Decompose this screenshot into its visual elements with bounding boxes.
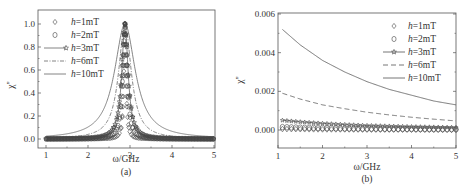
diamond-marker — [325, 127, 329, 133]
figure: 123450.00.20.40.60.81.0 ω/GHz (a) χ'' h=… — [0, 0, 467, 189]
circle-marker — [392, 36, 396, 41]
y-tick-label-a: 0.6 — [24, 65, 36, 75]
x-tick-label-b: 4 — [409, 151, 414, 161]
y-tick-label-b: 0.000 — [255, 125, 276, 135]
x-tick-label-b: 3 — [365, 151, 370, 161]
diamond-marker — [392, 23, 396, 28]
y-tick-label-b: 0.006 — [255, 9, 276, 19]
diamond-marker — [302, 126, 306, 132]
y-tick-label-a: 0.2 — [24, 111, 35, 121]
diamond-marker — [298, 126, 302, 132]
circle-marker — [316, 125, 320, 131]
x-tick-label-b: 1 — [276, 151, 281, 161]
star-marker — [280, 118, 284, 122]
y-tick-label-a: 0.8 — [24, 42, 36, 52]
x-tick-label-b: 5 — [454, 151, 459, 161]
diamond-marker — [329, 127, 333, 133]
legend-a: h=1mTh=2mTh=3mTh=6mTh=10mT — [44, 17, 104, 79]
diamond-marker — [311, 127, 315, 133]
diamond-marker — [307, 127, 311, 133]
circle-marker — [280, 124, 284, 130]
legend-entry-b: h=6mT — [408, 60, 436, 70]
circle-marker — [302, 125, 306, 131]
x-axis-label-b: ω/GHz — [354, 162, 381, 172]
y-axis-label-b: χ'' — [235, 76, 245, 85]
diamond-marker — [53, 19, 57, 24]
circle-marker — [320, 125, 324, 131]
x-tick-label-a: 5 — [212, 150, 217, 160]
y-tick-label-a: 1.0 — [24, 19, 36, 29]
legend-entry-a: h=2mT — [71, 30, 99, 40]
diamond-marker — [125, 101, 129, 106]
legend-entry-a: h=3mT — [71, 43, 99, 53]
x-tick-label-a: 2 — [86, 150, 91, 160]
circle-marker — [289, 125, 293, 131]
legend-b: h=1mTh=2mTh=3mTh=6mTh=10mT — [383, 21, 441, 83]
panel-b: 123450.0000.0020.0040.006 ω/GHz (b) χ'' … — [235, 9, 459, 185]
circle-marker — [294, 125, 298, 131]
diamond-marker — [320, 127, 324, 133]
circle-marker — [307, 125, 311, 131]
diamond-marker — [316, 127, 320, 133]
x-tick-label-a: 1 — [44, 150, 49, 160]
plot-frame-a — [38, 10, 215, 148]
y-tick-label-a: 0.0 — [24, 134, 36, 144]
legend-entry-b: h=3mT — [408, 47, 436, 57]
panel-caption-b: (b) — [361, 174, 372, 185]
y-axis-label-a: χ'' — [6, 81, 16, 90]
legend-entry-a: h=10mT — [71, 69, 104, 79]
y-tick-label-b: 0.004 — [255, 48, 276, 58]
curves-a — [44, 22, 216, 142]
legend-entry-b: h=10mT — [408, 73, 441, 83]
legend-entry-a: h=1mT — [71, 17, 99, 27]
legend-entry-b: h=2mT — [408, 34, 436, 44]
panel-a: 123450.00.20.40.60.81.0 ω/GHz (a) χ'' h=… — [6, 10, 217, 178]
legend-entry-a: h=6mT — [71, 56, 99, 66]
circle-marker — [311, 125, 315, 131]
x-tick-label-a: 4 — [170, 150, 175, 160]
circle-marker — [298, 125, 302, 131]
diamond-marker — [294, 126, 298, 132]
diamond-marker — [122, 69, 126, 74]
circle-marker — [285, 124, 289, 130]
curve-h=6mT — [282, 93, 456, 121]
panel-caption-a: (a) — [121, 167, 132, 178]
legend-entry-b: h=1mT — [408, 21, 436, 31]
x-tick-label-b: 2 — [320, 151, 325, 161]
circle-marker — [53, 32, 57, 37]
y-tick-label-b: 0.002 — [255, 86, 275, 96]
x-axis-label-a: ω/GHz — [113, 154, 140, 164]
y-tick-label-a: 0.4 — [24, 88, 36, 98]
